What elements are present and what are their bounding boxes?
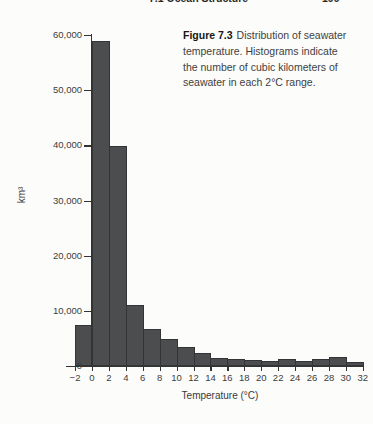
y-tick <box>84 311 91 312</box>
histogram-bar <box>92 41 110 366</box>
histogram-bar <box>194 353 212 366</box>
y-axis-line <box>91 34 92 366</box>
x-axis-line <box>66 366 363 367</box>
y-tick <box>84 201 91 202</box>
x-tick-label: 32 <box>351 372 373 383</box>
y-tick <box>84 90 91 91</box>
histogram-bar <box>160 339 178 366</box>
y-tick <box>84 35 91 36</box>
y-axis-title: km³ <box>16 179 30 211</box>
y-tick <box>84 256 91 257</box>
y-tick-label: 60,000 <box>36 29 82 40</box>
y-tick <box>84 145 91 146</box>
histogram-bar <box>143 329 161 366</box>
y-tick-label: 50,000 <box>36 84 82 95</box>
y-tick-label: 40,000 <box>36 139 82 150</box>
y-tick-label: 30,000 <box>36 195 82 206</box>
histogram-bar <box>177 347 195 366</box>
y-tick-label: 20,000 <box>36 250 82 261</box>
histogram-bar <box>126 305 144 366</box>
x-axis-title: Temperature (°C) <box>115 390 325 401</box>
y-tick-label: 10,000 <box>36 305 82 316</box>
histogram-bar <box>109 146 127 366</box>
